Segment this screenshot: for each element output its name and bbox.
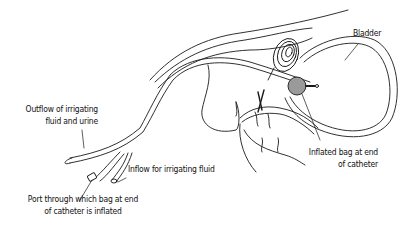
label-balloon-line2: of catheter	[300, 158, 378, 170]
label-port: Port through which bag at end of cathete…	[18, 193, 148, 217]
label-inflow: Inflow for irrigating fluid	[128, 163, 215, 175]
label-balloon-line1: Inflated bag at end	[300, 146, 378, 158]
label-bladder: Bladder	[353, 27, 381, 39]
leader-lines	[80, 94, 320, 200]
label-bladder-text: Bladder	[353, 27, 381, 39]
label-port-line2: of catheter is inflated	[18, 205, 148, 217]
inflated-balloon	[288, 77, 319, 95]
label-outflow-line2: fluid and urine	[20, 115, 98, 127]
label-outflow-line1: Outflow of irrigating	[20, 103, 98, 115]
label-outflow: Outflow of irrigating fluid and urine	[20, 103, 98, 127]
label-balloon: Inflated bag at end of catheter	[300, 146, 378, 170]
label-port-line1: Port through which bag at end	[18, 193, 148, 205]
body-outline	[150, 10, 348, 88]
label-inflow-text: Inflow for irrigating fluid	[128, 163, 215, 175]
